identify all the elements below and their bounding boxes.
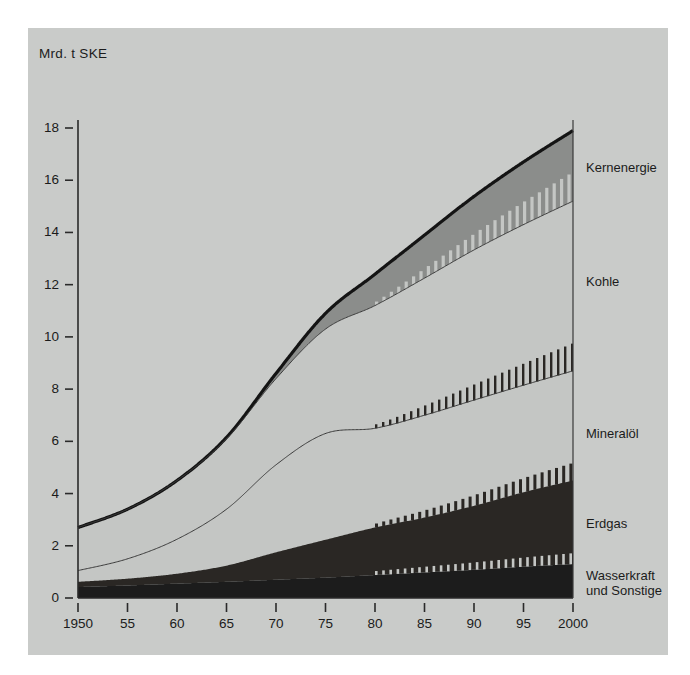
comb-tooth [519, 558, 522, 567]
comb-tooth [530, 197, 533, 221]
comb-tooth [497, 560, 500, 568]
x-tick-label: 2000 [543, 616, 603, 631]
chart-figure: Mrd. t SKE 181614121086420 1950556065707… [0, 0, 690, 675]
comb-tooth [526, 477, 529, 492]
comb-tooth [424, 405, 426, 415]
comb-tooth [425, 567, 428, 573]
comb-tooth [456, 245, 459, 260]
comb-tooth [564, 347, 566, 374]
comb-tooth [562, 554, 565, 565]
comb-tooth [562, 466, 565, 483]
comb-tooth [567, 174, 570, 203]
comb-tooth [452, 394, 454, 407]
comb-tooth [440, 565, 443, 571]
comb-tooth [445, 397, 447, 409]
comb-tooth [375, 524, 378, 528]
comb-tooth [501, 373, 503, 392]
comb-tooth [548, 470, 551, 486]
comb-tooth [466, 388, 468, 403]
comb-tooth [404, 516, 407, 522]
y-tick-label: 16 [33, 172, 59, 187]
comb-tooth [515, 367, 517, 388]
y-tick-label: 14 [33, 224, 59, 239]
comb-tooth [459, 391, 461, 405]
comb-tooth [569, 464, 572, 482]
comb-tooth [490, 561, 493, 569]
series-label-kohle: Kohle [586, 274, 619, 289]
comb-tooth [557, 349, 559, 375]
comb-tooth [464, 240, 467, 256]
comb-tooth [418, 567, 421, 573]
comb-tooth [471, 235, 474, 252]
comb-tooth [411, 568, 414, 573]
comb-tooth [480, 382, 482, 399]
comb-tooth [512, 482, 515, 496]
comb-tooth [447, 503, 450, 512]
comb-tooth [512, 559, 515, 568]
comb-tooth [382, 570, 385, 574]
comb-tooth [519, 479, 522, 493]
comb-tooth [411, 514, 414, 521]
comb-tooth [541, 472, 544, 488]
comb-tooth [501, 215, 504, 236]
comb-tooth [555, 468, 558, 485]
comb-tooth [389, 570, 392, 575]
comb-tooth [560, 179, 563, 207]
comb-tooth [505, 559, 508, 568]
comb-tooth [397, 569, 400, 574]
comb-tooth [469, 497, 472, 508]
comb-tooth [536, 358, 538, 382]
comb-tooth [523, 201, 526, 224]
comb-tooth [486, 225, 489, 244]
comb-tooth [533, 475, 536, 490]
comb-tooth [533, 557, 536, 567]
comb-tooth [548, 555, 551, 565]
comb-tooth [508, 211, 511, 232]
y-tick-label: 12 [33, 277, 59, 292]
comb-tooth [538, 192, 541, 217]
plot-area [65, 120, 573, 612]
series-label-erdgas: Erdgas [586, 516, 627, 531]
comb-tooth [494, 376, 496, 394]
comb-tooth [461, 563, 464, 570]
comb-tooth [487, 379, 489, 397]
comb-tooth [375, 571, 378, 575]
comb-tooth [483, 492, 486, 504]
comb-tooth [529, 361, 531, 384]
comb-tooth [516, 206, 519, 228]
comb-tooth [389, 519, 392, 524]
y-tick-label: 10 [33, 329, 59, 344]
y-tick-label: 4 [33, 486, 59, 501]
comb-tooth [526, 557, 529, 566]
comb-tooth [505, 484, 508, 497]
comb-tooth [543, 355, 545, 379]
comb-tooth [476, 494, 479, 505]
comb-tooth [473, 385, 475, 401]
comb-tooth [553, 183, 556, 210]
comb-tooth [433, 566, 436, 572]
comb-tooth [438, 400, 440, 412]
comb-tooth [417, 408, 419, 417]
comb-tooth [483, 561, 486, 569]
comb-tooth [490, 489, 493, 501]
comb-tooth [382, 521, 385, 526]
comb-tooth [545, 188, 548, 214]
comb-tooth [433, 508, 436, 516]
comb-tooth [497, 487, 500, 500]
comb-tooth [418, 512, 421, 519]
y-tick-label: 0 [33, 590, 59, 605]
comb-tooth [397, 518, 400, 524]
comb-tooth [425, 510, 428, 518]
comb-tooth [461, 499, 464, 509]
comb-tooth [404, 568, 407, 573]
comb-tooth [447, 565, 450, 572]
comb-tooth [569, 553, 572, 564]
comb-tooth [469, 563, 472, 570]
y-tick-label: 8 [33, 381, 59, 396]
comb-tooth [454, 564, 457, 571]
comb-tooth [508, 370, 510, 390]
y-tick-label: 2 [33, 538, 59, 553]
comb-tooth [403, 414, 405, 421]
y-tick-label: 18 [33, 120, 59, 135]
y-tick-label: 6 [33, 433, 59, 448]
